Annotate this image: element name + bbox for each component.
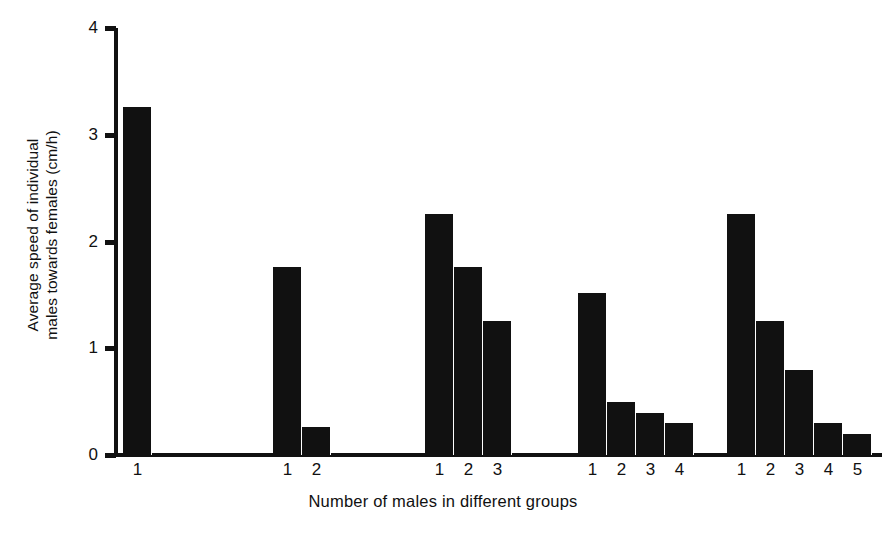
x-tick-label: 1 [737, 460, 746, 480]
bar [123, 107, 152, 455]
x-tick-label: 2 [312, 460, 321, 480]
x-tick-label: 2 [617, 460, 626, 480]
x-tick-label: 1 [435, 460, 444, 480]
x-tick-label: 5 [853, 460, 862, 480]
x-tick-label: 3 [795, 460, 804, 480]
bar [302, 427, 331, 455]
bar-chart-figure: Average speed of individual males toward… [0, 0, 886, 540]
x-tick-label: 1 [588, 460, 597, 480]
y-tick-label: 3 [74, 126, 98, 143]
bar [273, 267, 302, 455]
bar [843, 434, 872, 455]
y-tick-mark [105, 26, 116, 31]
y-tick-label: 1 [74, 339, 98, 356]
x-axis-tick-labels: 112123123412345 [118, 460, 882, 486]
bar [727, 214, 756, 455]
bar [636, 413, 665, 455]
x-tick-label: 4 [824, 460, 833, 480]
bar [483, 321, 512, 456]
x-tick-label: 4 [675, 460, 684, 480]
y-tick-mark [105, 133, 116, 138]
bar [814, 423, 843, 455]
bar [665, 423, 694, 455]
plot-area [118, 28, 882, 455]
y-tick-label: 4 [74, 19, 98, 36]
bar [607, 402, 636, 455]
x-tick-label: 3 [493, 460, 502, 480]
bar [425, 214, 454, 455]
x-tick-label: 1 [283, 460, 292, 480]
x-tick-label: 3 [646, 460, 655, 480]
y-tick-mark [105, 240, 116, 245]
bar [756, 321, 785, 456]
y-tick-mark [105, 346, 116, 351]
x-tick-label: 1 [133, 460, 142, 480]
x-tick-label: 2 [766, 460, 775, 480]
bar [785, 370, 814, 455]
y-tick-label: 0 [74, 446, 98, 463]
bar [578, 293, 607, 455]
y-axis-title: Average speed of individual males toward… [0, 0, 84, 470]
y-tick-mark [105, 453, 116, 458]
bar [454, 267, 483, 455]
x-axis-title: Number of males in different groups [0, 492, 886, 511]
y-tick-label: 2 [74, 233, 98, 250]
y-axis-title-line-2: males towards females (cm/h) [42, 130, 61, 340]
x-tick-label: 2 [464, 460, 473, 480]
y-axis-title-line-1: Average speed of individual [23, 130, 42, 340]
